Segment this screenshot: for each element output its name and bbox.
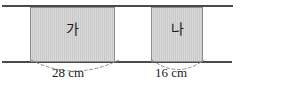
dimension-label-28cm: 28 cm xyxy=(52,66,84,79)
dimension-label-16cm: 16 cm xyxy=(155,66,187,79)
rectangle-na-label: 나 xyxy=(171,22,184,36)
geometry-figure: 가 나 28 cm 16 cm xyxy=(0,0,287,98)
rectangle-na: 나 xyxy=(151,7,203,62)
rectangle-ga-label: 가 xyxy=(66,22,79,36)
rectangle-ga: 가 xyxy=(30,7,115,62)
